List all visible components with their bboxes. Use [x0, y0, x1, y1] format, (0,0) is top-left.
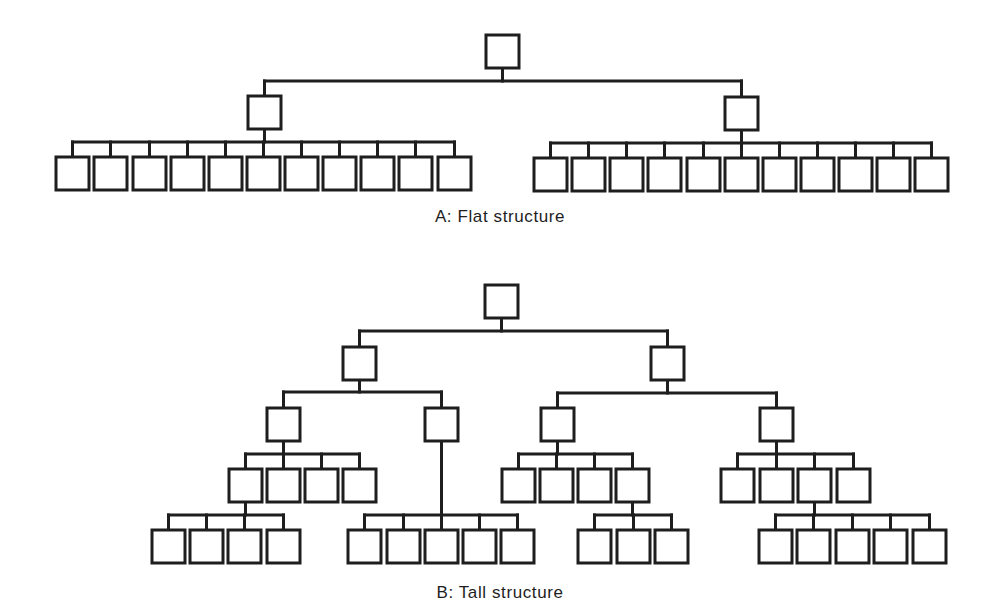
org-node-box: [285, 157, 318, 190]
flat-structure-diagram: [56, 35, 948, 191]
org-node-box: [763, 158, 796, 191]
org-node-box: [267, 530, 300, 563]
org-node-box: [913, 530, 946, 563]
org-node-box: [305, 469, 338, 502]
org-node-box: [725, 97, 758, 130]
tall-structure-diagram: [152, 285, 946, 563]
org-node-box: [485, 285, 518, 318]
org-node-box: [874, 530, 907, 563]
org-node-box: [760, 469, 793, 502]
org-node-box: [687, 158, 720, 191]
org-node-box: [760, 408, 793, 441]
org-node-box: [486, 35, 519, 68]
org-node-box: [425, 408, 458, 441]
org-node-box: [343, 347, 376, 380]
org-node-box: [247, 157, 280, 190]
org-node-box: [578, 469, 611, 502]
org-node-box: [837, 469, 870, 502]
org-node-box: [228, 530, 261, 563]
org-node-box: [267, 408, 300, 441]
org-node-box: [915, 158, 948, 191]
org-node-box: [361, 157, 394, 190]
org-node-box: [839, 158, 872, 191]
org-node-box: [248, 96, 281, 129]
org-node-box: [801, 158, 834, 191]
org-node-box: [348, 530, 381, 563]
org-node-box: [540, 469, 573, 502]
flat-structure-caption: A: Flat structure: [435, 207, 565, 227]
org-node-box: [323, 157, 356, 190]
org-node-box: [798, 469, 831, 502]
org-node-box: [572, 158, 605, 191]
org-node-box: [190, 530, 223, 563]
org-node-box: [152, 530, 185, 563]
org-node-box: [836, 530, 869, 563]
org-node-box: [725, 158, 758, 191]
org-node-box: [502, 469, 535, 502]
org-node-box: [343, 469, 376, 502]
org-node-box: [651, 347, 684, 380]
org-node-box: [616, 469, 649, 502]
org-node-box: [541, 408, 574, 441]
org-node-box: [209, 157, 242, 190]
org-node-box: [267, 469, 300, 502]
org-node-box: [438, 157, 471, 190]
org-node-box: [877, 158, 910, 191]
org-node-box: [721, 469, 754, 502]
node-boxes: [152, 285, 946, 563]
org-node-box: [648, 158, 681, 191]
org-node-box: [133, 157, 166, 190]
org-node-box: [797, 530, 830, 563]
org-node-box: [655, 530, 688, 563]
connector-lines: [73, 68, 932, 158]
org-node-box: [94, 157, 127, 190]
org-node-box: [171, 157, 204, 190]
org-structure-diagrams: [0, 0, 996, 606]
org-node-box: [387, 530, 420, 563]
org-node-box: [399, 157, 432, 190]
tall-structure-caption: B: Tall structure: [436, 583, 563, 603]
org-node-box: [534, 158, 567, 191]
org-node-box: [617, 530, 650, 563]
org-node-box: [56, 157, 89, 190]
org-node-box: [425, 530, 458, 563]
org-node-box: [463, 530, 496, 563]
org-node-box: [578, 530, 611, 563]
org-node-box: [610, 158, 643, 191]
node-boxes: [56, 35, 948, 191]
org-node-box: [501, 530, 534, 563]
org-node-box: [759, 530, 792, 563]
org-node-box: [229, 469, 262, 502]
